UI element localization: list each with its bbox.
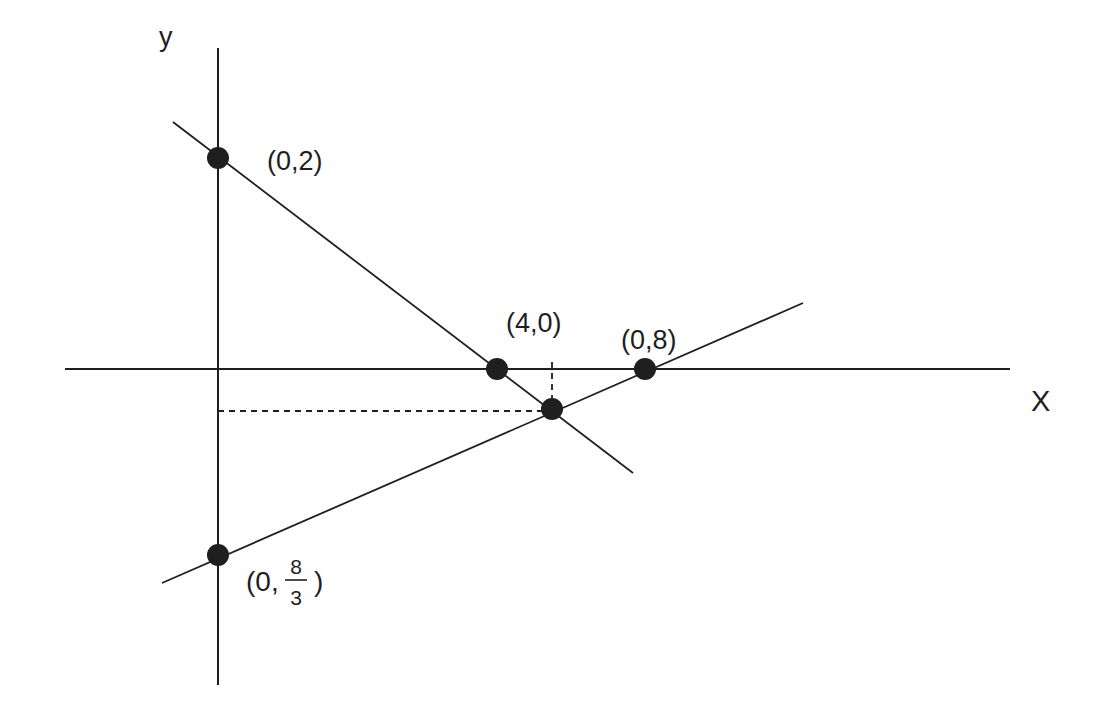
falling-line	[173, 122, 633, 473]
rising-line	[162, 303, 803, 583]
point-intersection	[541, 398, 563, 420]
point-4-0-label: (4,0)	[506, 308, 562, 338]
coordinate-plane-figure: y X (0,2) (4,0) (0,8) (0, 8 3 )	[0, 0, 1103, 723]
point-0-8	[634, 358, 656, 380]
y-axis-label: y	[159, 22, 173, 52]
point-0-8-3	[207, 544, 229, 566]
point-0-8-3-label-prefix: (0,	[246, 566, 279, 597]
point-0-8-3-label-denominator: 3	[290, 586, 302, 609]
figure-svg: y X (0,2) (4,0) (0,8) (0, 8 3 )	[0, 0, 1103, 723]
figure-labels: y X (0,2) (4,0) (0,8) (0, 8 3 )	[159, 22, 1050, 609]
point-0-8-label: (0,8)	[621, 325, 677, 355]
point-4-0	[486, 358, 508, 380]
point-0-8-3-label-suffix: )	[314, 566, 323, 597]
x-axis-label: X	[1031, 385, 1050, 417]
point-0-2-label: (0,2)	[267, 146, 323, 176]
point-0-8-3-label-numerator: 8	[290, 555, 302, 578]
figure-points	[207, 147, 656, 566]
point-0-2	[207, 147, 229, 169]
figure-strokes	[65, 48, 1010, 685]
